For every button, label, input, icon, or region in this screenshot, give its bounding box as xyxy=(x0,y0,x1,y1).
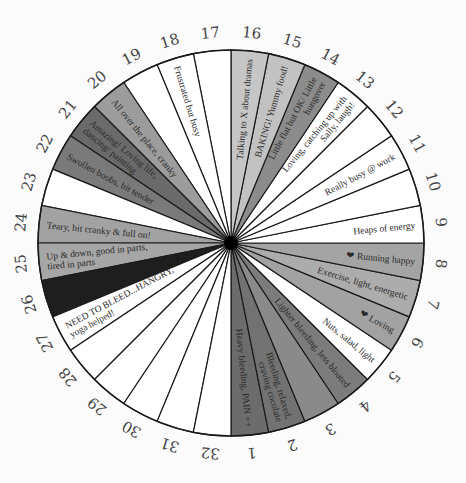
day-number: 3 xyxy=(322,419,339,439)
day-number: 17 xyxy=(200,23,221,43)
day-number: 1 xyxy=(246,444,257,463)
day-number: 6 xyxy=(407,334,427,351)
day-number: 7 xyxy=(423,297,443,311)
day-number: 28 xyxy=(55,364,81,390)
day-number: 31 xyxy=(158,434,181,457)
day-number: 29 xyxy=(84,393,110,419)
day-number: 26 xyxy=(18,293,41,316)
day-number: 24 xyxy=(11,212,31,233)
wheel-hub xyxy=(224,236,238,250)
day-number: 9 xyxy=(432,217,451,228)
day-number: 20 xyxy=(84,67,110,93)
day-number: 4 xyxy=(355,396,374,416)
cycle-mood-wheel: Heavy bleeding, PAIN ++Bleeding, relaxed… xyxy=(0,0,466,483)
day-number: 16 xyxy=(241,23,262,43)
day-number: 8 xyxy=(432,258,451,269)
day-number: 21 xyxy=(55,96,81,122)
day-number: 2 xyxy=(285,435,299,455)
day-number: 11 xyxy=(405,131,430,156)
day-number: 5 xyxy=(384,367,404,386)
day-number: 13 xyxy=(352,67,378,93)
day-number: 25 xyxy=(11,253,31,274)
day-number: 15 xyxy=(281,30,304,53)
day-number: 18 xyxy=(158,30,181,53)
day-number: 22 xyxy=(32,131,57,156)
day-number: 19 xyxy=(119,44,144,69)
day-number: 12 xyxy=(381,96,407,122)
day-number: 23 xyxy=(18,170,41,193)
day-number: 14 xyxy=(318,44,343,69)
day-number: 30 xyxy=(119,417,144,442)
day-number: 27 xyxy=(32,330,57,355)
day-number: 32 xyxy=(200,443,221,463)
day-number: 10 xyxy=(422,170,445,193)
